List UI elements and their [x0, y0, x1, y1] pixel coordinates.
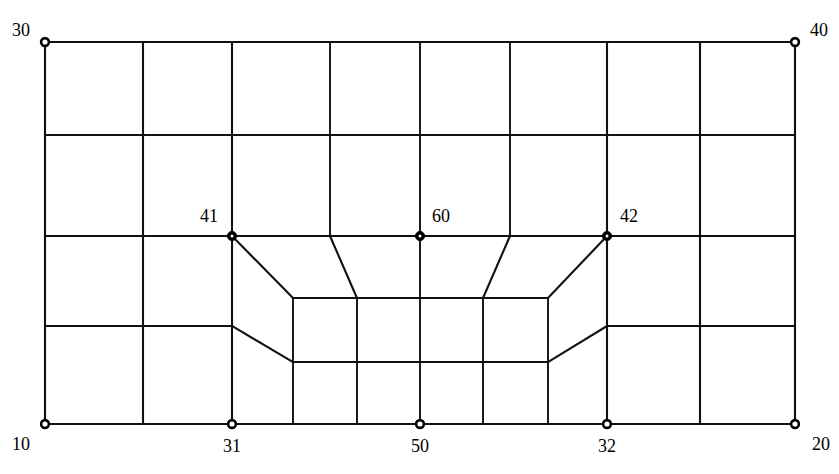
- mesh-edge-transition-510-to-refined-483: [483, 236, 510, 298]
- node-marker-50: [416, 420, 424, 428]
- node-label-20: 20: [812, 434, 830, 454]
- mesh-edge-transition-left-shelf-to-refined-bottom: [232, 326, 293, 362]
- mesh-edge-transition-right-shelf-to-refined-bottom: [548, 326, 607, 362]
- node-label-50: 50: [411, 436, 429, 456]
- mesh-edge-transition-330-to-refined-357: [330, 236, 357, 298]
- finite-element-mesh-figure: 30404160421031503220: [0, 0, 839, 474]
- node-marker-32: [603, 420, 611, 428]
- mesh-edge-transition-42-to-refined-topright: [548, 236, 607, 298]
- mesh-vertical-lines-upper: [330, 42, 510, 236]
- node-marker-10: [41, 420, 49, 428]
- node-marker-center-42: [606, 235, 609, 238]
- node-label-10: 10: [12, 434, 30, 454]
- node-marker-center-60: [419, 235, 422, 238]
- node-marker-31: [228, 420, 236, 428]
- mesh-edge-transition-41-to-refined-topleft: [232, 236, 293, 298]
- node-label-32: 32: [598, 436, 616, 456]
- node-label-30: 30: [12, 20, 30, 40]
- node-marker-40: [791, 38, 799, 46]
- node-label-40: 40: [810, 20, 828, 40]
- node-label-31: 31: [223, 436, 241, 456]
- node-marker-20: [791, 420, 799, 428]
- mesh-canvas: 30404160421031503220: [0, 0, 839, 474]
- node-label-42: 42: [620, 206, 638, 226]
- node-label-41: 41: [200, 206, 218, 226]
- node-marker-30: [41, 38, 49, 46]
- node-marker-center-41: [231, 235, 234, 238]
- node-label-60: 60: [432, 206, 450, 226]
